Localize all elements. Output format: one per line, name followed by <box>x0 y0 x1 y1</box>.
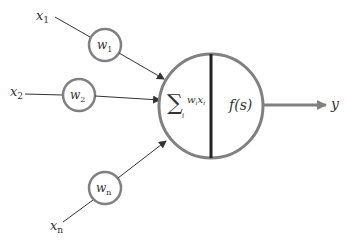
input-x1-label: x1 <box>36 8 49 25</box>
output-y-label: y <box>330 96 340 112</box>
sum-index: i <box>182 112 184 120</box>
input-x2-line <box>25 94 63 95</box>
weight-w2-arrow <box>95 96 160 100</box>
neuron-body: ∑ i wixi f(s) <box>159 54 263 158</box>
input-x1-line <box>55 17 90 37</box>
input-xn-label: xn <box>50 218 63 235</box>
neuron-diagram: x1 w1 x2 w2 xn wn ∑ i wixi f(s) y <box>0 0 347 244</box>
input-xn: xn wn <box>50 141 166 235</box>
weight-wn-arrow <box>118 141 166 178</box>
weight-w1-arrow <box>119 53 164 79</box>
input-x2: x2 w2 <box>10 79 160 111</box>
sum-symbol: ∑ <box>167 90 183 115</box>
input-x2-label: x2 <box>10 84 23 101</box>
output: y <box>263 96 340 112</box>
activation-function: f(s) <box>228 97 252 113</box>
input-xn-line <box>63 200 93 222</box>
input-x1: x1 w1 <box>36 8 164 79</box>
